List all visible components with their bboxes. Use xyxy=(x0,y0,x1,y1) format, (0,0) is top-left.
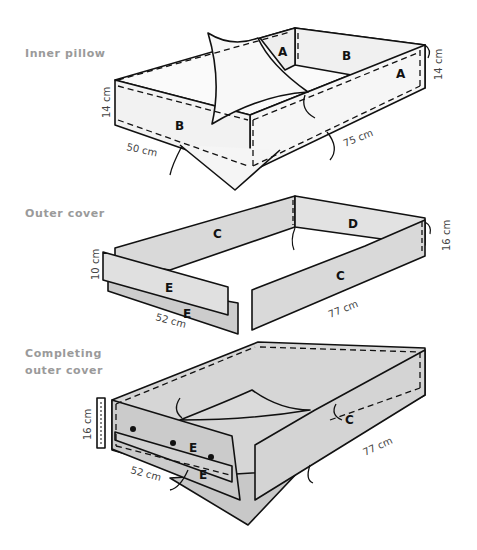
dimension-height-left: 10 cm xyxy=(90,249,101,280)
dimension-length: 75 cm xyxy=(342,127,375,149)
panel-label: C xyxy=(336,269,345,283)
panel-label: B xyxy=(342,49,351,63)
dimension-length: 77 cm xyxy=(327,298,360,320)
panel-label: D xyxy=(348,217,358,231)
dimension-width: 50 cm xyxy=(126,141,159,158)
inner-pillow-illustration xyxy=(115,28,429,190)
dimension-length: 77 cm xyxy=(361,435,394,458)
outer-cover-illustration xyxy=(103,196,430,334)
dimension-height-right: 16 cm xyxy=(441,220,452,251)
panel-label: B xyxy=(175,119,184,133)
panel-label: E xyxy=(199,468,207,482)
panel-label: E xyxy=(165,281,173,295)
panel-label: C xyxy=(213,227,222,241)
panel-label: A xyxy=(278,45,288,59)
dimension-height-left: 14 cm xyxy=(101,87,112,118)
panel-label: A xyxy=(396,67,406,81)
dimension-height-left: 16 cm xyxy=(82,409,93,440)
dimension-height-right: 14 cm xyxy=(433,49,444,80)
panel-label: E xyxy=(189,441,197,455)
completing-cover-illustration xyxy=(97,342,425,525)
panel-label: C xyxy=(345,413,354,427)
sewing-diagram: A B A B 14 cm 14 cm 50 cm 75 cm C D C E xyxy=(0,0,477,550)
